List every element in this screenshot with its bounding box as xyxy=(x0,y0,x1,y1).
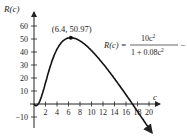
y-tick-label: 10 xyxy=(20,87,28,96)
y-tick-label: 30 xyxy=(20,61,28,70)
y-tick-label: 60 xyxy=(20,22,28,31)
chart: 2468101214161820 −10102030405060 R(c) c … xyxy=(0,0,187,136)
y-tick-label: 40 xyxy=(20,48,28,57)
x-tick-label: 6 xyxy=(67,108,71,117)
max-point-label: (6.4, 50.97) xyxy=(52,24,92,34)
x-tick-label: 12 xyxy=(99,108,107,117)
x-tick-label: 2 xyxy=(44,108,48,117)
x-tick-label: 10 xyxy=(88,108,96,117)
formula: R(c) = 10c2 1 + 0.08c2 − 7c xyxy=(103,33,187,57)
x-tick-label: 20 xyxy=(145,108,153,117)
y-tick-label: −10 xyxy=(15,113,28,122)
x-axis-label: c xyxy=(153,92,157,102)
y-tick-label: 50 xyxy=(20,35,28,44)
max-point xyxy=(69,36,73,40)
svg-text:− 7c: − 7c xyxy=(180,40,187,50)
x-tick-label: 4 xyxy=(55,108,59,117)
svg-text:1 + 0.08c2: 1 + 0.08c2 xyxy=(131,47,164,57)
x-tick-label: 8 xyxy=(78,108,82,117)
x-tick-label: 14 xyxy=(111,108,119,117)
svg-text:R(c) =: R(c) = xyxy=(103,40,127,50)
svg-text:10c2: 10c2 xyxy=(141,33,156,43)
x-tick-label: 16 xyxy=(122,108,130,117)
y-axis-label: R(c) xyxy=(3,4,20,14)
y-tick-label: 20 xyxy=(20,74,28,83)
